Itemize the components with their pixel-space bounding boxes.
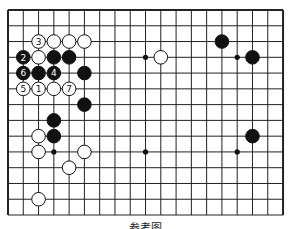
black-stone — [246, 51, 260, 65]
diagram-caption: 参考图 — [0, 222, 290, 229]
white-stone-icon — [47, 35, 61, 49]
black-stone-icon — [32, 66, 46, 80]
white-stone-icon — [62, 35, 76, 49]
black-stone-icon — [215, 35, 229, 49]
white-stone-icon — [78, 145, 92, 159]
white-stone-icon — [32, 192, 46, 206]
move-number-label: 5 — [20, 84, 26, 94]
white-stone: 3 — [32, 35, 46, 49]
black-stone — [47, 114, 61, 128]
black-stone — [78, 98, 92, 112]
move-number-label: 4 — [51, 68, 57, 78]
star-point-icon — [235, 55, 240, 60]
black-stone — [47, 51, 61, 65]
white-stone — [32, 51, 46, 65]
black-stone — [246, 129, 260, 143]
white-stone — [47, 35, 61, 49]
white-stone: 5 — [16, 82, 30, 96]
white-stone — [78, 35, 92, 49]
white-stone — [62, 35, 76, 49]
black-stone: 4 — [47, 66, 61, 80]
go-board: 3264517 — [0, 0, 290, 229]
white-stone — [47, 82, 61, 96]
star-point-icon — [235, 149, 240, 154]
white-stone-icon — [154, 51, 168, 65]
white-stone-icon — [32, 51, 46, 65]
star-point-icon — [143, 149, 148, 154]
white-stone — [32, 192, 46, 206]
black-stone-icon — [78, 66, 92, 80]
white-stone-icon — [78, 35, 92, 49]
white-stone — [78, 145, 92, 159]
star-point-icon — [51, 149, 56, 154]
move-number-label: 7 — [66, 84, 72, 94]
black-stone-icon — [47, 114, 61, 128]
black-stone — [78, 66, 92, 80]
black-stone: 2 — [16, 51, 30, 65]
black-stone-icon — [47, 51, 61, 65]
black-stone — [47, 129, 61, 143]
black-stone-icon — [246, 129, 260, 143]
white-stone-icon — [47, 82, 61, 96]
black-stone — [62, 51, 76, 65]
white-stone — [32, 129, 46, 143]
white-stone-icon — [32, 129, 46, 143]
white-stone-icon — [62, 161, 76, 175]
black-stone-icon — [78, 98, 92, 112]
black-stone-icon — [47, 129, 61, 143]
black-stone — [215, 35, 229, 49]
star-point-icon — [143, 55, 148, 60]
move-number-label: 2 — [20, 53, 26, 63]
move-number-label: 3 — [36, 37, 42, 47]
move-number-label: 6 — [20, 68, 26, 78]
black-stone: 6 — [16, 66, 30, 80]
move-number-label: 1 — [36, 84, 42, 94]
white-stone — [62, 161, 76, 175]
white-stone — [154, 51, 168, 65]
white-stone — [32, 145, 46, 159]
black-stone-icon — [62, 51, 76, 65]
black-stone — [32, 66, 46, 80]
white-stone-icon — [32, 145, 46, 159]
white-stone: 1 — [32, 82, 46, 96]
white-stone: 7 — [62, 82, 76, 96]
black-stone-icon — [246, 51, 260, 65]
